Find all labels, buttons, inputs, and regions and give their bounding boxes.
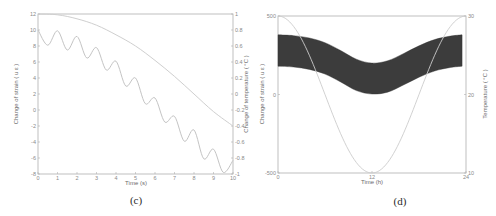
x-tick-label: 2 <box>75 175 78 181</box>
caption-d: (d) <box>394 195 407 208</box>
y-left-tick-label: 2 <box>33 91 36 97</box>
y-right-tick-label: 0.6 <box>235 43 243 49</box>
y-left-tick-label: 12 <box>30 11 36 17</box>
x-axis-label-d: Time (h) <box>361 179 383 185</box>
y-right-tick-label: -0.8 <box>235 155 244 161</box>
y-right-tick-label: 20 <box>468 92 474 98</box>
y-left-tick-label: 6 <box>33 59 36 65</box>
y-right-tick-label: 10 <box>468 170 474 176</box>
x-tick-label: 4 <box>114 175 117 181</box>
y-axis-left-label-c: Change of strain ( u ε ) <box>13 64 19 125</box>
x-tick-label: 3 <box>95 175 98 181</box>
plot-frame-c <box>38 14 233 174</box>
y-axis-right-label-d: Temperature ( °C ) <box>482 69 488 118</box>
y-left-tick-label: 8 <box>33 43 36 49</box>
y-left-tick-label: -2 <box>31 123 36 129</box>
temperature-line-c <box>38 14 233 126</box>
figure: 012345678910 121086420-2-4-6-8 10.80.60.… <box>0 0 496 216</box>
panel-c-chart: 012345678910 121086420-2-4-6-8 10.80.60.… <box>13 11 249 207</box>
x-tick-label: 6 <box>153 175 156 181</box>
x-tick-label: 1 <box>56 175 59 181</box>
y-left-tick-label: 4 <box>33 75 36 81</box>
x-axis-label-c: Time (s) <box>125 180 147 186</box>
caption-c: (c) <box>130 194 143 207</box>
y-left-tick-label: -6 <box>31 155 36 161</box>
y-right-tick-label: -0.6 <box>235 139 244 145</box>
y-right-tick-label: 0.2 <box>235 75 243 81</box>
y-axis-left-label-d: Change of strain ( u ε ) <box>259 64 265 125</box>
y-left-tick-label: 0 <box>273 92 276 98</box>
y-left-tick-label: 0 <box>33 107 36 113</box>
y-left-tick-label: 10 <box>30 27 36 33</box>
x-tick-label: 7 <box>173 175 176 181</box>
y-left-tick-label: -500 <box>265 170 276 176</box>
y-axis-left-ticks-c: 121086420-2-4-6-8 <box>30 11 40 177</box>
y-axis-right-label-c: Change of temperature ( °C ) <box>243 55 249 132</box>
y-left-tick-label: -8 <box>31 171 36 177</box>
x-tick-label: 8 <box>192 175 195 181</box>
y-left-tick-label: -4 <box>31 139 36 145</box>
y-right-tick-label: 1 <box>235 11 238 17</box>
strain-band-d <box>278 35 462 94</box>
y-axis-right-ticks-d: 302010 <box>464 13 474 176</box>
panel-d-chart: 01224 5000-500 302010 Time (h) Change of… <box>259 13 488 208</box>
x-tick-label: 9 <box>212 175 215 181</box>
y-right-tick-label: 0 <box>235 91 238 97</box>
x-tick-label: 0 <box>276 174 279 180</box>
y-right-tick-label: -1 <box>235 171 240 177</box>
y-right-tick-label: 0.4 <box>235 59 243 65</box>
y-right-tick-label: 0.8 <box>235 27 243 33</box>
y-right-tick-label: 30 <box>468 13 474 19</box>
y-left-tick-label: 500 <box>267 13 276 19</box>
x-tick-label: 0 <box>36 175 39 181</box>
strain-line-c <box>38 30 233 173</box>
